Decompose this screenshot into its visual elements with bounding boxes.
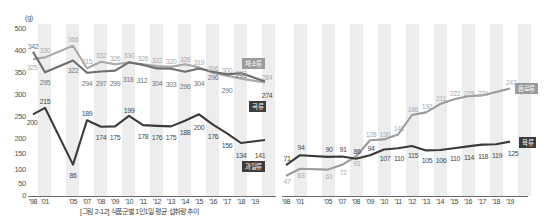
data-label-beverages: 63: [292, 172, 310, 179]
data-label-fruits: 189: [77, 110, 97, 117]
data-label-grains: 322: [63, 67, 83, 74]
data-label-fruits: 200: [189, 124, 209, 131]
figure-caption: [그림 2-12] 식품군별 1인1일 평균 섭취량 추이: [80, 206, 199, 216]
data-label-grains: 296: [203, 74, 223, 81]
data-label-grains: 274: [257, 92, 277, 99]
data-label-meat: 94: [292, 144, 310, 151]
data-label-grains: 293: [231, 72, 251, 79]
data-label-fruits: 156: [217, 142, 237, 149]
x-tick-01: '01: [291, 198, 309, 206]
data-label-beverages: 130: [376, 131, 394, 138]
data-label-vegetables: 284: [257, 74, 277, 81]
legend-chip-grains[interactable]: 곡류: [249, 101, 266, 112]
data-label-fruits: 141: [250, 152, 270, 159]
data-label-beverages: 47: [278, 178, 296, 185]
legend-chip-beverages[interactable]: 음료류: [515, 83, 538, 94]
data-label-meat: 71: [278, 155, 296, 162]
data-label-fruits: 175: [105, 134, 125, 141]
data-label-vegetables: 325: [22, 64, 42, 71]
data-label-fruits: 199: [119, 107, 139, 114]
data-label-vegetables: 366: [63, 36, 83, 43]
data-label-beverages: 231: [474, 90, 492, 97]
data-label-grains: 304: [189, 80, 209, 87]
data-label-beverages: 141: [390, 125, 408, 132]
series-path-beverages: [286, 88, 510, 175]
data-label-fruits: 176: [203, 133, 223, 140]
data-label-beverages: 72: [334, 169, 352, 176]
x-tick-19: '19: [246, 198, 264, 206]
x-tick-19: '19: [501, 198, 519, 206]
chart-left: (g) 500 450 400 350 300 250 200 150 100 …: [0, 0, 280, 222]
data-label-grains: 295: [35, 79, 55, 86]
chart-right: 47 63 61 72 91 128 130 141 186 192 211 2…: [280, 0, 551, 222]
data-label-meat: 125: [504, 150, 522, 157]
data-label-fruits: 134: [231, 152, 251, 159]
data-label-beverages: 91: [348, 160, 366, 167]
data-label-grains: 290: [217, 87, 237, 94]
data-label-beverages: 192: [418, 103, 436, 110]
legend-chip-vegetables[interactable]: 채소류: [242, 58, 265, 69]
data-label-grains: 342: [23, 43, 43, 50]
figure-root: (g) 500 450 400 350 300 250 200 150 100 …: [0, 0, 551, 222]
data-label-fruits: 200: [22, 119, 42, 126]
legend-chip-meat[interactable]: 육류: [519, 137, 536, 148]
data-label-vegetables: 315: [77, 58, 97, 65]
x-tick-01: '01: [36, 198, 54, 206]
data-label-fruits: 86: [63, 172, 83, 179]
data-label-fruits: 215: [35, 98, 55, 105]
legend-chip-fruits[interactable]: 과일류: [242, 161, 265, 172]
data-label-meat: 94: [362, 145, 380, 152]
left-series-paths: [0, 0, 280, 222]
